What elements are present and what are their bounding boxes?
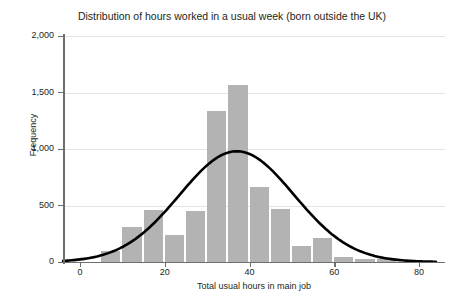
bar-45-50 [271,209,290,262]
y-tick-2000 [58,36,64,37]
bar-35-40 [228,85,247,262]
x-axis-line [63,262,445,264]
chart-title: Distribution of hours worked in a usual … [0,10,464,22]
bar-25-30 [186,211,205,262]
x-tick-label-0: 0 [60,267,100,277]
y-tick-label-0: 0 [6,256,54,266]
bar-30-35 [207,111,226,262]
bar-5-10 [101,251,120,262]
x-axis-title: Total usual hours in main job [63,281,445,291]
bar-15-20 [144,210,163,262]
x-tick-label-20: 20 [145,267,185,277]
bar-10-15 [122,227,141,262]
y-tick-0 [58,262,64,263]
x-tick-label-80: 80 [399,267,439,277]
y-tick-1500 [58,92,64,93]
clipped-header-text [0,0,464,7]
bar-55-60 [313,238,332,262]
bar-20-25 [165,235,184,262]
y-tick-500 [58,205,64,206]
y-tick-label-500: 500 [6,200,54,210]
x-tick-label-60: 60 [314,267,354,277]
y-axis-title: Frequency [28,80,38,190]
bar-50-55 [292,246,311,262]
histogram-bars [80,36,419,262]
bar-40-45 [250,187,269,262]
x-tick-label-40: 40 [230,267,270,277]
y-tick-label-2000: 2,000 [6,30,54,40]
y-tick-1000 [58,149,64,150]
